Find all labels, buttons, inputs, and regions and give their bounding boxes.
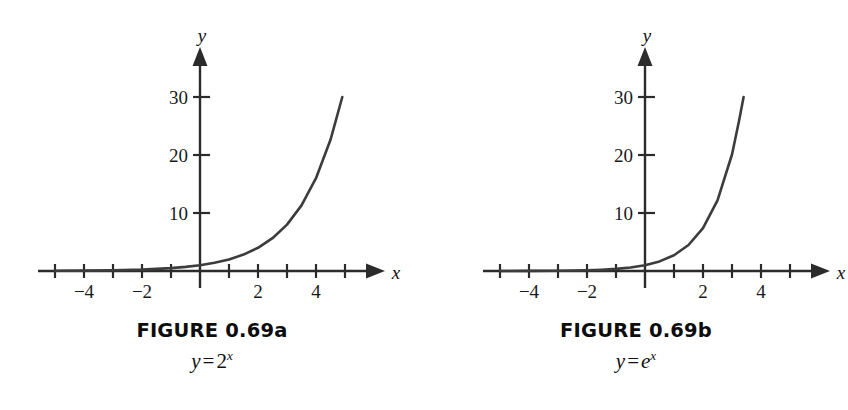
equation-lhs-a: y — [191, 349, 200, 373]
x-tick-label-2: 2 — [698, 281, 708, 302]
equation-base-b: e — [641, 349, 650, 373]
figure-panel-a: x y −4 −2 2 4 10 20 30 FIGURE 0.69a y=2x — [0, 0, 424, 410]
y-tick-label-10: 10 — [169, 203, 188, 224]
caption-block-a: FIGURE 0.69a y=2x — [0, 318, 424, 375]
y-tick-label-30: 30 — [169, 87, 188, 108]
caption-block-b: FIGURE 0.69b y=ex — [424, 318, 848, 375]
y-axis-label: y — [641, 25, 652, 46]
x-axis-arrowhead — [366, 264, 385, 279]
equation-base-a: 2 — [216, 349, 227, 373]
plot-area-b: x y −4 −2 2 4 10 20 30 — [424, 0, 848, 318]
x-tick-label-4: 4 — [311, 281, 321, 302]
y-axis-ticks — [193, 97, 210, 213]
x-tick-label-4: 4 — [756, 281, 766, 302]
equation-operator-a: = — [201, 349, 217, 373]
equation-operator-b: = — [625, 349, 641, 373]
figure-pair: x y −4 −2 2 4 10 20 30 FIGURE 0.69a y=2x — [0, 0, 848, 410]
equation-exponent-a: x — [227, 348, 233, 363]
y-tick-label-30: 30 — [614, 87, 633, 108]
equation-exponent-b: x — [650, 348, 656, 363]
figure-title-b: FIGURE 0.69b — [424, 318, 848, 344]
y-tick-label-10: 10 — [614, 203, 633, 224]
x-tick-label-2: 2 — [253, 281, 263, 302]
equation-lhs-b: y — [616, 349, 625, 373]
graph-svg-b: x y −4 −2 2 4 10 20 30 — [424, 0, 848, 318]
y-axis-label: y — [196, 25, 207, 46]
y-axis-arrowhead — [193, 47, 208, 66]
y-axis-arrowhead — [638, 47, 653, 66]
x-axis-label: x — [836, 262, 846, 283]
y-axis-ticks — [638, 97, 655, 213]
plot-area-a: x y −4 −2 2 4 10 20 30 — [0, 0, 424, 318]
curve-e-to-the-x — [500, 97, 744, 271]
figure-equation-b: y=ex — [424, 344, 848, 375]
x-tick-label-minus2: −2 — [577, 281, 597, 302]
figure-title-a: FIGURE 0.69a — [0, 318, 424, 344]
figure-panel-b: x y −4 −2 2 4 10 20 30 FIGURE 0.69b y=ex — [424, 0, 848, 410]
curve-two-to-the-x — [55, 97, 342, 271]
x-tick-label-minus4: −4 — [519, 281, 540, 302]
figure-equation-a: y=2x — [0, 344, 424, 375]
x-tick-label-minus2: −2 — [132, 281, 152, 302]
x-axis-arrowhead — [811, 264, 830, 279]
graph-svg-a: x y −4 −2 2 4 10 20 30 — [0, 0, 424, 318]
y-tick-label-20: 20 — [614, 145, 633, 166]
x-axis-label: x — [391, 262, 401, 283]
y-tick-label-20: 20 — [169, 145, 188, 166]
x-tick-label-minus4: −4 — [74, 281, 95, 302]
